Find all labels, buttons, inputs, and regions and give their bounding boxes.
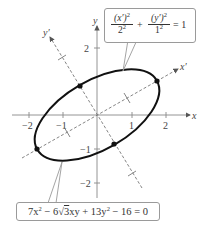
vertex-point — [34, 146, 39, 151]
y-tick-label: −2 — [80, 178, 91, 189]
y-prime-label: y′ — [42, 27, 50, 38]
covertex-point — [111, 141, 116, 146]
standard-form-callout: (x′)2 22 + (y′)2 12 = 1 — [104, 8, 196, 43]
equals-one: = 1 — [173, 19, 186, 30]
y-tick-label: −1 — [80, 144, 91, 155]
x-axis-label: x — [191, 110, 197, 121]
y-tick-label: 2 — [84, 43, 89, 54]
vertex-point — [154, 78, 159, 83]
exponent: 2 — [164, 11, 167, 18]
fraction-x-prime: (x′)2 22 — [111, 13, 133, 36]
exponent: 2 — [127, 11, 130, 18]
term-xy-13y: xy + 13y — [69, 206, 106, 217]
plus-sign: + — [137, 19, 143, 30]
x-tick-label: −2 — [22, 120, 33, 131]
x-prime-label: x′ — [179, 61, 187, 72]
fraction-y-prime: (y′)2 12 — [148, 13, 170, 36]
rotated-axes — [22, 37, 178, 188]
term-7x: 7x — [28, 206, 39, 217]
exponent: 2 — [160, 23, 163, 30]
term-minus-16: − 16 = 0 — [110, 206, 148, 217]
numerator: (x′) — [114, 13, 127, 23]
covertex-point — [77, 83, 82, 88]
x-tick-label: 2 — [163, 120, 168, 131]
x-tick-label: 1 — [129, 120, 134, 131]
numerator: (y′) — [151, 13, 164, 23]
exponent: 2 — [123, 23, 126, 30]
y-axis-label: y — [92, 15, 98, 26]
general-form-callout: 7x2 − 6√3xy + 13y2 − 16 = 0 — [16, 202, 160, 221]
term-minus-6: − 6 — [42, 206, 58, 217]
